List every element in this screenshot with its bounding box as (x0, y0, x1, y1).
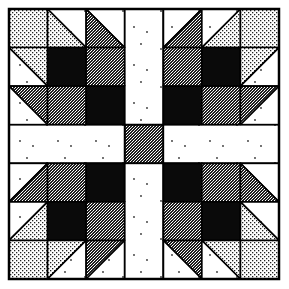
sashing-cell (125, 202, 164, 241)
half-square-triangle-cell (9, 202, 48, 241)
square-cell (48, 48, 87, 87)
half-square-triangle-cell (240, 163, 279, 202)
square-cell (86, 86, 125, 125)
square-cell (86, 48, 125, 87)
half-square-triangle-cell (9, 163, 48, 202)
square-cell (163, 163, 202, 202)
square-cell (9, 240, 48, 279)
half-square-triangle-cell (9, 86, 48, 125)
sashing-cell (48, 125, 87, 164)
square-cell (86, 163, 125, 202)
sashing-cell (125, 240, 164, 279)
square-cell (240, 240, 279, 279)
sashing-cell (9, 125, 48, 164)
square-cell (48, 86, 87, 125)
square-cell (202, 86, 241, 125)
square-cell (9, 9, 48, 48)
half-square-triangle-cell (163, 240, 202, 279)
half-square-triangle-cell (48, 9, 87, 48)
sashing-cell (125, 48, 164, 87)
sashing-cell (240, 125, 279, 164)
quilt-block-svg (0, 0, 289, 289)
quilt-cells (9, 9, 279, 279)
square-cell (86, 202, 125, 241)
half-square-triangle-cell (240, 48, 279, 87)
sashing-cell (86, 125, 125, 164)
half-square-triangle-cell (9, 48, 48, 87)
square-cell (48, 202, 87, 241)
square-cell (240, 9, 279, 48)
square-cell (163, 86, 202, 125)
sashing-cell (202, 125, 241, 164)
half-square-triangle-cell (86, 9, 125, 48)
half-square-triangle-cell (240, 86, 279, 125)
half-square-triangle-cell (48, 240, 87, 279)
quilt-block-figure (0, 0, 289, 289)
half-square-triangle-cell (86, 240, 125, 279)
square-cell (163, 48, 202, 87)
half-square-triangle-cell (202, 9, 241, 48)
half-square-triangle-cell (202, 240, 241, 279)
sashing-cell (163, 125, 202, 164)
square-cell (202, 202, 241, 241)
half-square-triangle-cell (240, 202, 279, 241)
sashing-cell (125, 86, 164, 125)
square-cell (125, 125, 164, 164)
square-cell (163, 202, 202, 241)
square-cell (48, 163, 87, 202)
sashing-cell (125, 163, 164, 202)
half-square-triangle-cell (163, 9, 202, 48)
square-cell (202, 163, 241, 202)
sashing-cell (125, 9, 164, 48)
square-cell (202, 48, 241, 87)
